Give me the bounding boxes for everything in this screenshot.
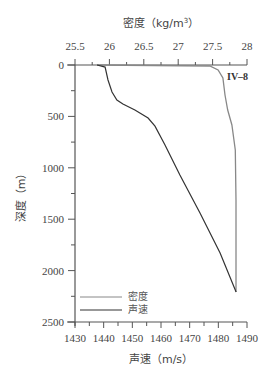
depth-profile-chart: 密度（kg/m3） 25.52626.52727.528 05001000150…	[0, 0, 274, 389]
top-tick-label: 26	[104, 40, 116, 52]
y-tick-label: 0	[59, 59, 65, 71]
bottom-tick-label: 1450	[121, 332, 144, 344]
top-axis	[67, 59, 247, 65]
top-tick-label: 27	[173, 40, 185, 52]
y-tick-label: 2500	[42, 316, 65, 328]
bottom-axis-tick-labels: 1430144014501460147014801490	[64, 332, 259, 344]
bottom-tick-label: 1430	[64, 332, 87, 344]
bottom-tick-label: 1490	[236, 332, 259, 344]
bottom-tick-label: 1440	[93, 332, 116, 344]
top-tick-label: 28	[242, 40, 254, 52]
legend: 密度 声速	[80, 290, 148, 315]
top-tick-label: 25.5	[65, 40, 85, 52]
y-axis	[68, 65, 75, 326]
top-axis-tick-labels: 25.52626.52727.528	[65, 40, 253, 52]
sound-speed-curve	[97, 65, 236, 292]
y-tick-label: 2000	[42, 265, 65, 277]
y-axis-title: 深度（m）	[14, 168, 28, 223]
station-label: IV–8	[227, 71, 248, 82]
legend-label-density: 密度	[128, 290, 148, 302]
bottom-axis	[67, 322, 247, 328]
bottom-tick-label: 1470	[179, 332, 202, 344]
top-tick-label: 26.5	[134, 40, 154, 52]
top-axis-title: 密度（kg/m3）	[123, 16, 199, 30]
y-tick-label: 500	[48, 110, 65, 122]
y-tick-label: 1000	[42, 162, 65, 174]
bottom-tick-label: 1480	[207, 332, 230, 344]
y-tick-label: 1500	[42, 213, 65, 225]
bottom-tick-label: 1460	[150, 332, 173, 344]
top-tick-label: 27.5	[203, 40, 223, 52]
legend-label-speed: 声速	[128, 303, 148, 315]
density-curve	[97, 65, 236, 292]
y-axis-tick-labels: 05001000150020002500	[42, 59, 65, 328]
bottom-axis-title: 声速（m/s）	[129, 352, 193, 366]
